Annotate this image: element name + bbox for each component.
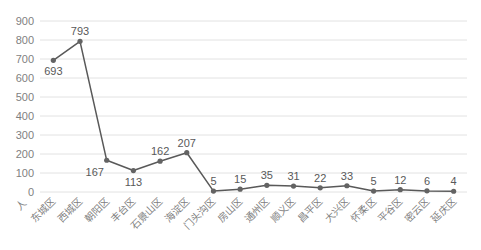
data-label: 693 bbox=[44, 65, 62, 77]
data-point bbox=[264, 183, 269, 188]
chart-container: 0100200300400500600700800900693793167113… bbox=[0, 0, 481, 250]
y-tick-label: 300 bbox=[16, 129, 34, 141]
y-tick-label: 900 bbox=[16, 15, 34, 27]
data-point bbox=[451, 189, 456, 194]
y-tick-label: 700 bbox=[16, 53, 34, 65]
y-tick-label: 400 bbox=[16, 110, 34, 122]
y-tick-label: 200 bbox=[16, 148, 34, 160]
data-label: 162 bbox=[151, 145, 169, 157]
data-label: 12 bbox=[394, 174, 406, 186]
data-label: 6 bbox=[424, 175, 430, 187]
data-point bbox=[157, 159, 162, 164]
data-label: 5 bbox=[371, 175, 377, 187]
data-point bbox=[77, 39, 82, 44]
data-point bbox=[184, 150, 189, 155]
y-tick-label: 0 bbox=[28, 186, 34, 198]
y-tick-label: 500 bbox=[16, 91, 34, 103]
data-point bbox=[318, 185, 323, 190]
data-point bbox=[211, 188, 216, 193]
data-label: 207 bbox=[178, 137, 196, 149]
data-point bbox=[424, 188, 429, 193]
data-label: 793 bbox=[71, 25, 89, 37]
data-label: 33 bbox=[341, 170, 353, 182]
data-point bbox=[291, 184, 296, 189]
data-label: 15 bbox=[234, 173, 246, 185]
data-label: 167 bbox=[86, 166, 104, 178]
data-label: 35 bbox=[261, 169, 273, 181]
data-point bbox=[51, 58, 56, 63]
data-point bbox=[238, 187, 243, 192]
data-point bbox=[371, 188, 376, 193]
data-label: 113 bbox=[125, 176, 143, 188]
data-point bbox=[398, 187, 403, 192]
line-chart: 0100200300400500600700800900693793167113… bbox=[0, 0, 481, 250]
data-point bbox=[104, 158, 109, 163]
y-tick-label: 600 bbox=[16, 72, 34, 84]
data-label: 31 bbox=[287, 170, 299, 182]
y-tick-label: 800 bbox=[16, 34, 34, 46]
data-point bbox=[344, 183, 349, 188]
data-point bbox=[131, 168, 136, 173]
data-label: 22 bbox=[314, 172, 326, 184]
y-tick-label: 100 bbox=[16, 167, 34, 179]
data-label: 5 bbox=[210, 175, 216, 187]
data-label: 4 bbox=[451, 175, 457, 187]
